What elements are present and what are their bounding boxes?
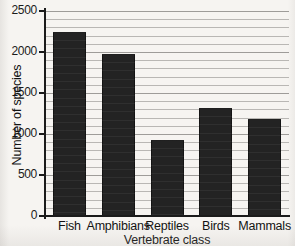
x-axis-title: Vertebrate class: [45, 233, 289, 246]
x-axis-category-label-mammals: Mammals: [220, 219, 295, 233]
y-axis-tick: [39, 133, 44, 135]
bar-birds: [199, 108, 232, 216]
y-axis-tick-label: 2500: [12, 3, 38, 17]
gridline: [45, 11, 289, 12]
y-axis-tick: [39, 215, 44, 217]
gridline: [45, 27, 289, 28]
y-axis-title: Number of species: [10, 40, 24, 190]
bar-chart-figure: 05001000150020002500 FishAmphibiansRepti…: [0, 0, 295, 246]
x-axis-line: [44, 215, 290, 217]
y-axis-tick: [39, 174, 44, 176]
bar-mammals: [248, 119, 281, 216]
bar-amphibians: [102, 54, 135, 216]
bar-reptiles: [151, 140, 184, 216]
y-axis-tick: [39, 92, 44, 94]
y-axis-line: [44, 8, 46, 219]
gridline: [45, 19, 289, 20]
plot-area: [45, 11, 289, 216]
y-axis-tick: [39, 10, 44, 12]
y-axis-tick: [39, 51, 44, 53]
bar-fish: [53, 32, 86, 216]
